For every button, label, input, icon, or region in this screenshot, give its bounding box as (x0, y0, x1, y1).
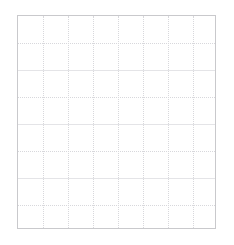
gridline-horizontal-2 (18, 97, 215, 98)
grid-layer (18, 16, 215, 228)
plot-frame (17, 15, 216, 229)
gridline-horizontal-6 (18, 205, 215, 206)
gridline-vertical-6 (193, 16, 194, 228)
gridline-horizontal-4 (18, 151, 215, 152)
gridline-horizontal-5 (18, 178, 215, 179)
gridline-vertical-0 (43, 16, 44, 228)
gridline-vertical-1 (68, 16, 69, 228)
gridline-horizontal-1 (18, 70, 215, 71)
screenshot-canvas (0, 0, 234, 245)
gridline-horizontal-0 (18, 43, 215, 44)
gridline-vertical-3 (118, 16, 119, 228)
gridline-horizontal-3 (18, 124, 215, 125)
gridline-vertical-2 (93, 16, 94, 228)
gridline-vertical-4 (143, 16, 144, 228)
gridline-vertical-5 (168, 16, 169, 228)
